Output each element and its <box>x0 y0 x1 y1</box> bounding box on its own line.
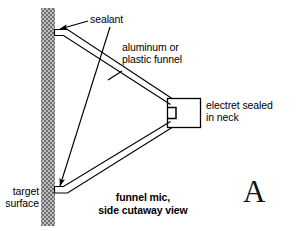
label-sealant: sealant <box>90 14 123 26</box>
label-target-surface-line1: target <box>0 186 39 198</box>
sealant-leader-upper <box>60 21 88 29</box>
label-electret-line2: in neck <box>206 112 239 124</box>
caption-line1: funnel mic, <box>80 192 206 204</box>
caption-line2: side cutaway view <box>80 205 206 217</box>
target-surface-wall <box>41 8 55 226</box>
funnel-mic-diagram: sealant aluminum or plastic funnel elect… <box>0 0 296 231</box>
label-target-surface-line2: surface <box>0 198 39 210</box>
funnel-material-leader <box>108 71 122 80</box>
electret-element <box>168 108 177 119</box>
funnel-lower-wall <box>54 122 172 194</box>
label-funnel-material-line2: plastic funnel <box>122 54 182 66</box>
label-funnel-material-line1: aluminum or <box>122 42 179 54</box>
neck-housing <box>168 99 201 128</box>
panel-letter: A <box>243 176 265 207</box>
label-electret-line1: electret sealed <box>206 100 273 112</box>
